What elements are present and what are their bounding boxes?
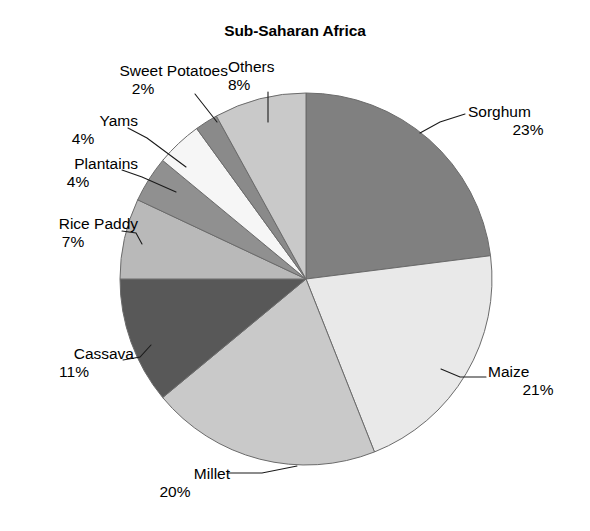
slice-label-sweet-potatoes-value: 2% [58,80,228,98]
slice-label-maize: Maize 21% [488,363,588,399]
slice-label-yams-value: 4% [28,130,138,148]
slice-label-rice-paddy-value: 7% [8,233,138,251]
slice-label-millet-name: Millet [120,465,230,483]
slice-label-cassava: Cassava 11% [14,345,134,381]
pie-chart-figure: Sub-Saharan Africa Others 8% [0,0,590,531]
slice-label-yams-name: Yams [28,112,138,130]
slice-label-rice-paddy: Rice Paddy 7% [8,215,138,251]
slice-label-yams: Yams 4% [28,112,138,148]
slice-label-others-value: 8% [228,76,328,94]
slice-label-millet-value: 20% [120,483,230,501]
slice-label-millet: Millet 20% [120,465,230,501]
slice-label-sorghum: Sorghum 23% [468,103,588,139]
leader-line-millet [228,466,297,473]
slice-label-cassava-name: Cassava [14,345,134,363]
leader-line-sweet-potatoes [195,94,217,122]
slice-label-sweet-potatoes: Sweet Potatoes 2% [58,62,228,98]
slice-label-sweet-potatoes-name: Sweet Potatoes [58,62,228,80]
slice-label-sorghum-value: 23% [468,121,588,139]
pie-slice-sorghum [306,93,491,279]
slice-label-others-name: Others [228,58,328,76]
pie-slices [120,93,492,465]
slice-label-rice-paddy-name: Rice Paddy [8,215,138,233]
slice-label-plantains-value: 4% [18,173,138,191]
slice-label-plantains-name: Plantains [18,155,138,173]
slice-label-sorghum-name: Sorghum [468,103,588,121]
slice-label-plantains: Plantains 4% [18,155,138,191]
slice-label-cassava-value: 11% [14,363,134,381]
slice-label-maize-value: 21% [488,381,588,399]
slice-label-maize-name: Maize [488,363,588,381]
leader-line-sorghum [420,114,465,133]
slice-label-others: Others 8% [228,58,328,94]
